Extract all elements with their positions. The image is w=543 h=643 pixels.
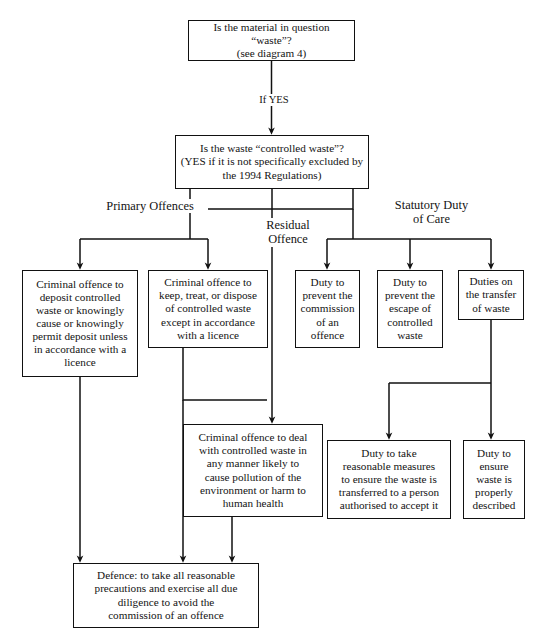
edge-label-residual-offence: Residual Offence <box>257 218 319 247</box>
node-duties-on-transfer[interactable]: Duties on the transfer of waste <box>458 270 524 320</box>
edge-spine-right <box>272 189 353 209</box>
node-keep-treat-dispose-offence-label: Criminal offence to keep, treat, or disp… <box>153 276 263 341</box>
edge-label-statutory-duty-of-care: Statutory Duty of Care <box>382 198 481 227</box>
node-duties-on-transfer-label: Duties on the transfer of waste <box>463 275 519 314</box>
node-is-material-waste[interactable]: Is the material in question “waste”? (se… <box>188 20 355 61</box>
node-residual-offence[interactable]: Criminal offence to deal with controlled… <box>183 424 323 517</box>
edge-keeptreat-to-residual <box>183 348 267 400</box>
node-keep-treat-dispose-offence[interactable]: Criminal offence to keep, treat, or disp… <box>148 270 268 348</box>
edge-label-if-yes: If YES <box>246 94 302 106</box>
node-deposit-offence[interactable]: Criminal offence to deposit controlled w… <box>22 270 138 377</box>
node-duty-prevent-commission[interactable]: Duty to prevent the commission of an off… <box>295 270 360 348</box>
node-duty-reasonable-measures-label: Duty to take reasonable measures to ensu… <box>332 447 446 512</box>
node-residual-offence-label: Criminal offence to deal with controlled… <box>188 431 318 510</box>
node-duty-prevent-commission-label: Duty to prevent the commission of an off… <box>300 276 355 341</box>
node-duty-properly-described-label: Duty to ensure waste is properly describ… <box>468 447 520 512</box>
edge-label-primary-offences: Primary Offences <box>92 199 208 213</box>
node-deposit-offence-label: Criminal offence to deposit controlled w… <box>27 278 133 370</box>
node-defence-label: Defence: to take all reasonable precauti… <box>78 569 254 621</box>
node-duty-prevent-escape-label: Duty to prevent the escape of controlled… <box>382 276 438 341</box>
node-duty-properly-described[interactable]: Duty to ensure waste is properly describ… <box>463 440 525 519</box>
node-is-material-waste-label: Is the material in question “waste”? (se… <box>193 21 350 60</box>
node-is-waste-controlled-label: Is the waste “controlled waste”? (YES if… <box>180 142 364 181</box>
node-duty-prevent-escape[interactable]: Duty to prevent the escape of controlled… <box>377 270 443 348</box>
node-defence[interactable]: Defence: to take all reasonable precauti… <box>73 563 259 628</box>
flowchart-canvas: Is the material in question “waste”? (se… <box>0 0 543 643</box>
node-duty-reasonable-measures[interactable]: Duty to take reasonable measures to ensu… <box>327 440 451 519</box>
node-is-waste-controlled[interactable]: Is the waste “controlled waste”? (YES if… <box>175 135 369 189</box>
